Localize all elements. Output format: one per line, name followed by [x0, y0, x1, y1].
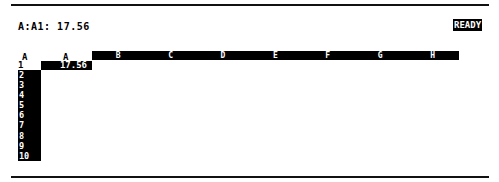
cell-a1-selected[interactable]: 17.56 — [41, 61, 92, 70]
cell-reference-indicator: A:A1: 17.56 — [18, 21, 90, 32]
column-header-d[interactable]: D — [197, 51, 249, 60]
column-header-b[interactable]: B — [92, 51, 144, 60]
row-header-3[interactable]: 3 — [18, 80, 41, 90]
bottom-border-line — [11, 176, 489, 178]
row-header-4[interactable]: 4 — [18, 90, 41, 100]
top-border-line — [11, 4, 489, 6]
row-header-2[interactable]: 2 — [18, 70, 41, 80]
row-header-7[interactable]: 7 — [18, 120, 41, 130]
row-header-bar: 2 3 4 5 6 7 8 9 10 — [18, 70, 41, 161]
mode-indicator: READY — [453, 19, 482, 31]
row-header-5[interactable]: 5 — [18, 100, 41, 110]
column-header-h[interactable]: H — [406, 51, 458, 60]
row-header-10[interactable]: 10 — [18, 151, 41, 161]
column-header-f[interactable]: F — [302, 51, 354, 60]
column-header-bar: B C D E F G H — [92, 51, 459, 60]
row-header-8[interactable]: 8 — [18, 131, 41, 141]
column-header-c[interactable]: C — [144, 51, 196, 60]
column-header-e[interactable]: E — [249, 51, 301, 60]
row-header-1[interactable]: 1 — [18, 61, 23, 70]
cell-a1-value: 17.56 — [60, 61, 92, 70]
row-header-6[interactable]: 6 — [18, 110, 41, 120]
column-header-g[interactable]: G — [354, 51, 406, 60]
row-header-9[interactable]: 9 — [18, 141, 41, 151]
